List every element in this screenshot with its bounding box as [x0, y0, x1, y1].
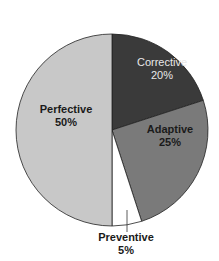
pie-slice-perfective: [16, 34, 112, 226]
label-perfective: Perfective 50%: [40, 103, 93, 129]
label-corrective: Corrective 20%: [137, 56, 187, 82]
label-preventive: Preventive 5%: [98, 231, 154, 257]
label-adaptive: Adaptive 25%: [147, 123, 193, 149]
